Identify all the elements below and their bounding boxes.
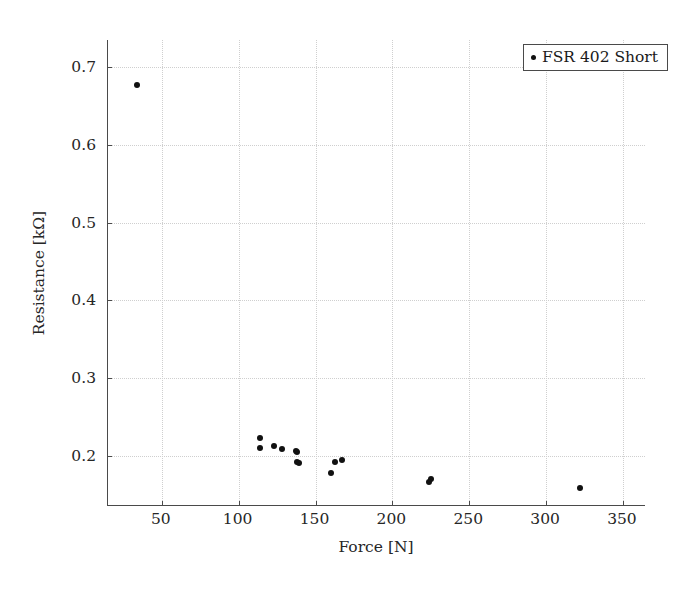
legend-marker-icon	[531, 55, 536, 60]
gridline-vertical	[316, 40, 317, 505]
gridline-vertical	[469, 40, 470, 505]
x-tick-mark	[392, 501, 393, 506]
legend: FSR 402 Short	[523, 44, 668, 71]
data-point	[577, 485, 583, 491]
x-tick-label: 100	[223, 510, 253, 528]
data-point	[332, 459, 338, 465]
legend-label: FSR 402 Short	[542, 48, 658, 66]
y-tick-mark	[107, 300, 112, 301]
data-point	[134, 82, 140, 88]
y-tick-mark	[107, 456, 112, 457]
x-tick-label: 250	[453, 510, 483, 528]
data-point	[296, 460, 302, 466]
data-point	[294, 449, 300, 455]
scatter-chart-figure: 50100150200250300350 0.20.30.40.50.60.7 …	[0, 0, 694, 592]
y-tick-mark	[107, 223, 112, 224]
x-tick-mark	[623, 501, 624, 506]
gridline-horizontal	[108, 456, 645, 457]
x-tick-mark	[469, 501, 470, 506]
gridline-vertical	[239, 40, 240, 505]
gridline-horizontal	[108, 300, 645, 301]
y-tick-mark	[107, 145, 112, 146]
y-axis-label: Resistance [kΩ]	[26, 40, 52, 506]
y-tick-label: 0.2	[71, 447, 96, 465]
data-point	[257, 445, 263, 451]
x-tick-label: 150	[300, 510, 330, 528]
data-point	[339, 457, 345, 463]
x-tick-label: 350	[607, 510, 637, 528]
data-point	[428, 476, 434, 482]
x-tick-mark	[316, 501, 317, 506]
data-point	[271, 443, 277, 449]
x-tick-mark	[239, 501, 240, 506]
y-tick-mark	[107, 378, 112, 379]
y-tick-label: 0.3	[71, 369, 96, 387]
x-axis-label: Force [N]	[107, 538, 645, 556]
data-point	[328, 470, 334, 476]
y-tick-label: 0.6	[71, 136, 96, 154]
x-tick-label: 50	[151, 510, 171, 528]
gridline-vertical	[546, 40, 547, 505]
gridline-horizontal	[108, 378, 645, 379]
y-tick-label: 0.4	[71, 291, 96, 309]
gridline-horizontal	[108, 223, 645, 224]
gridline-vertical	[623, 40, 624, 505]
gridline-horizontal	[108, 145, 645, 146]
gridline-vertical	[162, 40, 163, 505]
x-tick-mark	[162, 501, 163, 506]
gridline-vertical	[392, 40, 393, 505]
y-tick-label: 0.7	[71, 58, 96, 76]
y-tick-label: 0.5	[71, 214, 96, 232]
plot-area	[107, 40, 645, 506]
x-tick-label: 300	[530, 510, 560, 528]
x-tick-mark	[546, 501, 547, 506]
data-point	[279, 446, 285, 452]
x-tick-label: 200	[377, 510, 407, 528]
data-point	[257, 435, 263, 441]
y-tick-mark	[107, 67, 112, 68]
